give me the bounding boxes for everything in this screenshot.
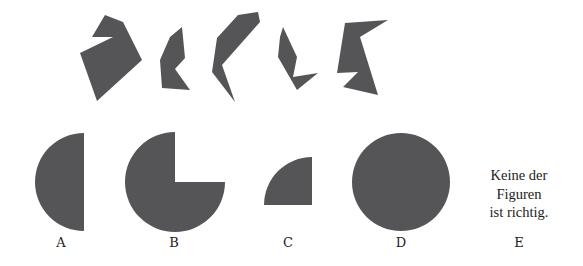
- option-a-semicircle[interactable]: [35, 133, 84, 231]
- option-a-label: A: [56, 236, 65, 249]
- piece-4: [278, 27, 318, 90]
- option-e-line-3: ist richtig.: [490, 203, 549, 222]
- option-d-circle[interactable]: [352, 133, 450, 231]
- options-row: [35, 132, 450, 232]
- option-e-line-2: Figuren: [490, 185, 549, 204]
- piece-2: [160, 27, 190, 90]
- option-d-label: D: [396, 236, 406, 249]
- option-e-line-1: Keine der: [490, 166, 549, 185]
- option-e-text[interactable]: Keine der Figuren ist richtig.: [490, 166, 549, 222]
- option-c-label: C: [283, 236, 293, 249]
- option-b-label: B: [169, 236, 179, 249]
- piece-3: [212, 12, 260, 102]
- option-b-three-quarter-circle[interactable]: [125, 132, 225, 232]
- piece-1: [80, 15, 142, 101]
- option-c-quarter-circle[interactable]: [264, 157, 312, 205]
- piece-5: [337, 20, 388, 95]
- pieces-row: [80, 12, 388, 102]
- option-e-label: E: [514, 236, 524, 249]
- puzzle-canvas: [0, 0, 583, 266]
